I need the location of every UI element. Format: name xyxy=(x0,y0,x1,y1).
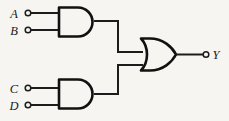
terminal-a[interactable] xyxy=(25,10,31,16)
terminal-y[interactable] xyxy=(203,52,209,58)
terminal-b[interactable] xyxy=(25,27,31,33)
terminal-d[interactable] xyxy=(25,102,31,108)
or-gate-1-body xyxy=(141,39,176,71)
label-input-a: A xyxy=(9,7,18,21)
wire-and1-to-or xyxy=(94,21,143,52)
terminal-c[interactable] xyxy=(25,85,31,91)
and-gate-2-body xyxy=(59,80,93,109)
wire-and2-to-or xyxy=(94,65,143,94)
label-input-c: C xyxy=(10,82,19,96)
circuit-canvas: A B C D Y xyxy=(0,0,229,121)
label-input-b: B xyxy=(10,24,18,38)
label-output-y: Y xyxy=(213,48,222,62)
logic-circuit-diagram: A B C D Y xyxy=(0,0,229,121)
and-gate-1-body xyxy=(59,8,93,37)
label-input-d: D xyxy=(8,99,18,113)
